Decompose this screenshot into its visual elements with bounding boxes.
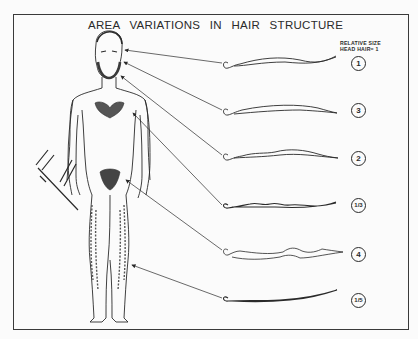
human-figure bbox=[36, 31, 150, 322]
hair-eyebrow bbox=[224, 105, 338, 115]
hair-beard bbox=[224, 150, 339, 160]
eyebrows bbox=[101, 51, 117, 52]
torso bbox=[67, 88, 150, 180]
left-leg bbox=[89, 195, 110, 322]
hair-structures bbox=[224, 56, 344, 302]
leader-beard bbox=[121, 76, 222, 155]
diagram-drawing bbox=[0, 0, 418, 339]
leader-head bbox=[125, 50, 222, 63]
pubic-hair bbox=[100, 169, 120, 190]
caliper-tool bbox=[36, 150, 78, 210]
leader-lines bbox=[121, 50, 222, 298]
leg-hair-right bbox=[118, 205, 125, 290]
hair-pubic bbox=[224, 248, 344, 259]
leg-hair-left bbox=[91, 205, 98, 290]
hair-chest bbox=[224, 202, 337, 208]
right-leg bbox=[110, 195, 129, 322]
chest-hair bbox=[95, 102, 124, 118]
leader-eyebrow bbox=[124, 62, 222, 110]
leader-leg bbox=[132, 265, 222, 298]
hair-head bbox=[224, 56, 337, 68]
hair-leg bbox=[224, 290, 338, 302]
